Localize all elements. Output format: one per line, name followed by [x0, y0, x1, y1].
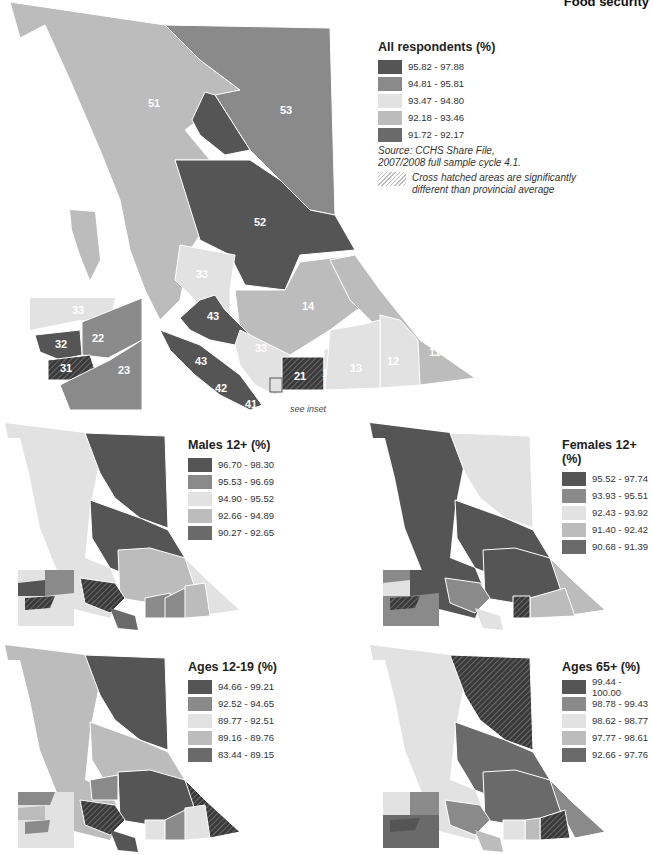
label-43b: 43	[195, 355, 207, 367]
svg-text:12: 12	[387, 355, 399, 367]
label-14: 14	[302, 300, 315, 312]
source-note: Source: CCHS Share File,2007/2008 full s…	[378, 145, 576, 169]
swatch	[378, 60, 402, 74]
inset-label-23: 23	[118, 364, 130, 376]
main-map-southeast: 13 12 11 14	[320, 250, 480, 400]
page-title: Food security	[564, 0, 649, 9]
hatch-note: Cross hatched areas are significantlydif…	[378, 172, 576, 196]
inset-label-31: 31	[60, 362, 72, 374]
label-51: 51	[148, 97, 160, 109]
label-43: 43	[207, 310, 219, 322]
legend-all-respondents: All respondents (%) 95.82 - 97.88 94.81 …	[378, 40, 576, 196]
inset-label-33: 33	[72, 304, 84, 316]
inset-label-22: 22	[92, 332, 104, 344]
legend-title: Females 12+ (%)	[562, 438, 653, 466]
label-41: 41	[245, 398, 257, 410]
label-21: 21	[294, 370, 306, 382]
label-33: 33	[196, 268, 208, 280]
inset-label-32: 32	[55, 338, 67, 350]
label-42: 42	[215, 382, 227, 394]
label-33b: 33	[255, 342, 267, 354]
legend-title: Ages 65+ (%)	[562, 660, 653, 674]
legend-females: Females 12+ (%) 95.52 - 97.74 93.93 - 95…	[562, 438, 653, 555]
hatch-swatch-icon	[378, 172, 406, 186]
haida-gwaii	[70, 210, 100, 280]
legend-ages-12-19: Ages 12-19 (%) 94.66 - 99.21 92.52 - 94.…	[188, 660, 277, 763]
swatch	[378, 94, 402, 108]
main-map: 51 53 52 33 14 43 43 33 42 41 21 13 12 1…	[0, 0, 360, 420]
svg-text:11: 11	[429, 346, 441, 358]
label-52: 52	[254, 216, 266, 228]
swatch	[378, 77, 402, 91]
legend-title: Ages 12-19 (%)	[188, 660, 277, 674]
label-53: 53	[280, 104, 292, 116]
swatch	[378, 128, 402, 142]
see-inset-label: see inset	[290, 404, 326, 414]
svg-text:13: 13	[350, 362, 362, 374]
swatch	[378, 111, 402, 125]
inset-map	[30, 298, 142, 410]
legend-ages-65: Ages 65+ (%) 99.44 - 100.00 98.78 - 99.4…	[562, 660, 653, 763]
legend-males: Males 12+ (%) 96.70 - 98.30 95.53 - 96.6…	[188, 438, 274, 541]
legend-title: All respondents (%)	[378, 40, 576, 54]
legend-title: Males 12+ (%)	[188, 438, 274, 452]
